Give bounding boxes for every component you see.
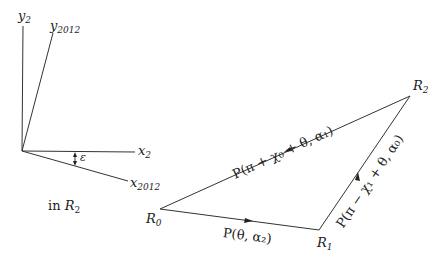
y2-axis <box>22 26 23 151</box>
diagram-canvas <box>0 0 444 260</box>
epsilon-label: ε <box>80 151 86 164</box>
y2012-axis-label: y2012 <box>50 18 80 35</box>
vertex-r1-label: R1 <box>317 235 333 252</box>
x2-axis-label: x2 <box>138 143 151 160</box>
vertex-r2-label: R2 <box>413 78 429 95</box>
epsilon-arrow-up-icon <box>73 152 77 157</box>
x2012-axis-label: x2012 <box>130 175 160 192</box>
x2-axis <box>22 151 135 152</box>
arrow-r0-r1-icon <box>244 218 253 223</box>
y2-axis-label: y2 <box>18 8 31 25</box>
vertex-r0-label: R0 <box>146 211 162 228</box>
frame-caption: in R2 <box>48 198 80 215</box>
y2012-axis <box>22 33 53 151</box>
